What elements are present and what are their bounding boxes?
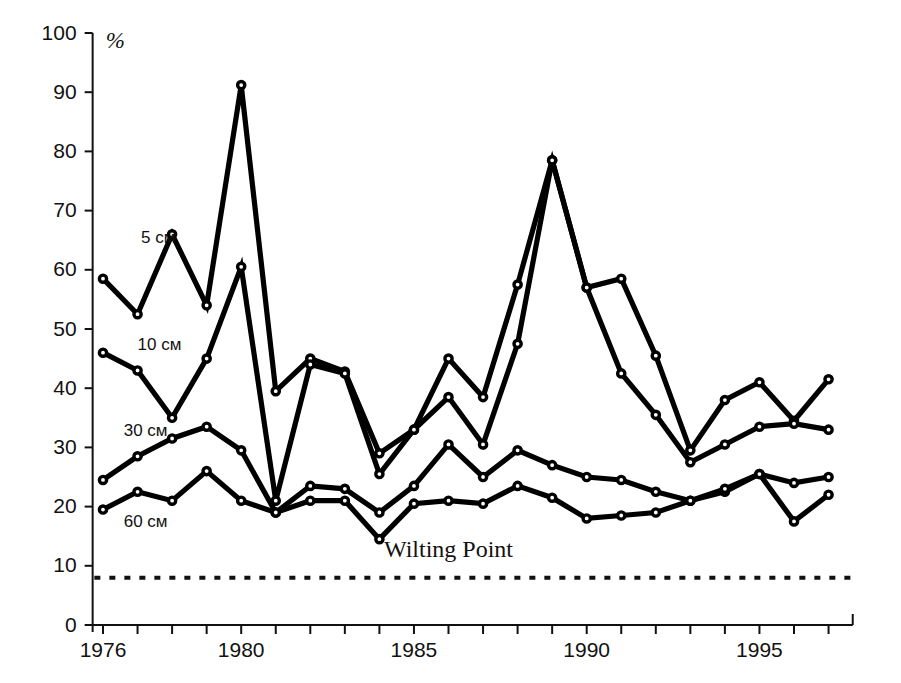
y-tick-label: 80: [53, 139, 76, 162]
data-point-marker: [721, 485, 728, 492]
data-point-marker: [445, 441, 452, 448]
data-point-marker: [825, 426, 832, 433]
data-point-marker: [99, 506, 106, 513]
data-point-marker: [203, 467, 210, 474]
y-tick-label: 100: [42, 21, 77, 44]
data-point-marker: [134, 488, 141, 495]
data-point-marker: [272, 509, 279, 516]
wilting-point-label: Wilting Point: [384, 536, 513, 562]
x-tick-label: 1976: [80, 638, 127, 661]
data-point-marker: [307, 497, 314, 504]
data-point-marker: [238, 447, 245, 454]
x-tick-label: 1985: [391, 638, 438, 661]
series-label-4: 60 см: [124, 512, 168, 531]
chart-container: 0102030405060708090100 19761980198519901…: [0, 0, 901, 683]
data-point-marker: [134, 311, 141, 318]
data-point-marker: [203, 355, 210, 362]
data-point-marker: [376, 509, 383, 516]
data-point-marker: [272, 388, 279, 395]
data-point-marker: [341, 497, 348, 504]
x-tick-label: 1995: [736, 638, 783, 661]
data-point-marker: [687, 447, 694, 454]
data-point-marker: [618, 512, 625, 519]
annotation-labels: Wilting Point: [384, 536, 513, 562]
x-tick-label: 1980: [218, 638, 265, 661]
soil-moisture-line-chart: 0102030405060708090100 19761980198519901…: [0, 0, 901, 683]
series-label-2: 10 см: [138, 335, 182, 354]
data-point-marker: [721, 441, 728, 448]
data-point-marker: [169, 414, 176, 421]
data-point-marker: [341, 485, 348, 492]
data-point-marker: [410, 426, 417, 433]
data-point-marker: [169, 435, 176, 442]
y-tick-label: 60: [53, 257, 76, 280]
data-point-marker: [825, 473, 832, 480]
y-axis-unit-label: %: [106, 28, 125, 53]
data-point-marker: [514, 281, 521, 288]
data-point-marker: [99, 275, 106, 282]
y-tick-label: 70: [53, 198, 76, 221]
data-point-marker: [825, 491, 832, 498]
data-point-marker: [376, 536, 383, 543]
series-line: [103, 471, 829, 539]
data-point-marker: [514, 447, 521, 454]
data-point-marker: [583, 515, 590, 522]
y-axis-unit-group: %: [106, 28, 125, 53]
data-point-marker: [134, 367, 141, 374]
data-point-marker: [756, 379, 763, 386]
data-series-group: [99, 82, 832, 543]
data-point-marker: [583, 284, 590, 291]
data-point-marker: [99, 349, 106, 356]
data-point-marker: [583, 473, 590, 480]
data-point-marker: [721, 396, 728, 403]
data-point-marker: [341, 370, 348, 377]
data-point-marker: [790, 518, 797, 525]
data-point-marker: [549, 157, 556, 164]
y-tick-label: 90: [53, 80, 76, 103]
x-tick-label: 1990: [563, 638, 610, 661]
data-point-marker: [652, 509, 659, 516]
y-tick-label: 20: [53, 494, 76, 517]
data-point-marker: [687, 459, 694, 466]
series-label-1: 5 см: [141, 228, 175, 247]
data-point-marker: [790, 420, 797, 427]
data-point-marker: [445, 355, 452, 362]
data-point-marker: [376, 470, 383, 477]
data-point-marker: [479, 393, 486, 400]
y-tick-label: 30: [53, 435, 76, 458]
data-point-marker: [479, 473, 486, 480]
data-point-marker: [618, 476, 625, 483]
y-tick-label: 10: [53, 553, 76, 576]
data-point-marker: [652, 488, 659, 495]
data-point-marker: [376, 450, 383, 457]
data-point-marker: [238, 263, 245, 270]
series-label-3: 30 см: [124, 421, 168, 440]
data-point-marker: [618, 275, 625, 282]
data-point-marker: [445, 393, 452, 400]
data-point-marker: [825, 376, 832, 383]
data-point-marker: [203, 423, 210, 430]
data-point-marker: [307, 482, 314, 489]
data-point-marker: [652, 352, 659, 359]
series-2: [99, 157, 832, 505]
y-tick-label: 50: [53, 317, 76, 340]
data-point-marker: [549, 462, 556, 469]
data-point-marker: [134, 453, 141, 460]
data-point-marker: [410, 500, 417, 507]
series-4: [99, 467, 832, 542]
data-point-marker: [169, 497, 176, 504]
series-line: [103, 85, 829, 453]
data-point-marker: [756, 470, 763, 477]
data-point-marker: [410, 482, 417, 489]
y-axis-ticks: 0102030405060708090100: [42, 21, 93, 636]
data-point-marker: [514, 340, 521, 347]
series-line: [103, 160, 829, 500]
data-point-marker: [479, 441, 486, 448]
y-tick-label: 0: [65, 613, 77, 636]
data-point-marker: [514, 482, 521, 489]
data-point-marker: [790, 479, 797, 486]
data-point-marker: [99, 476, 106, 483]
data-point-marker: [203, 302, 210, 309]
x-axis-ticks: 19761980198519901995: [80, 625, 829, 661]
data-point-marker: [687, 497, 694, 504]
